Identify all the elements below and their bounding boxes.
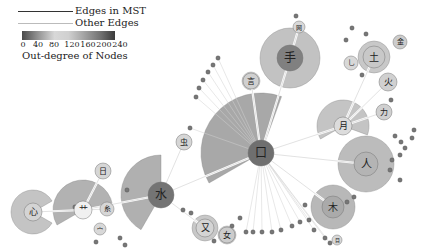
node-yi: 乚 [344,56,358,70]
leaf-node [238,216,242,220]
node-nv: 女 [219,227,235,243]
leaf-node [244,230,248,234]
leaf-node [352,195,356,199]
colorbar-ticks: 0 40 80 120 160 200 240 [21,40,131,50]
leaf-node [251,230,255,234]
node-label: 虫 [180,137,188,147]
node-label: 网 [296,24,302,32]
node-label: 宀 [97,226,103,233]
node-label: 人 [361,158,372,171]
node-label: 艹 [79,205,88,215]
mst-edge-swatch [18,11,73,12]
node-ri: 日 [95,163,111,179]
leaf-node [345,200,349,204]
leaf-node [290,224,294,228]
node-label: 土 [369,51,379,63]
leaf-node [94,240,98,244]
other-edge-swatch [18,23,73,24]
leaf-node [294,14,298,18]
colorbar-tick: 200 [96,40,111,49]
leaf-node [194,95,198,99]
leaf-node [307,218,311,222]
leaf-node [201,78,205,82]
colorbar-tick: 0 [20,40,25,49]
node-label: 糸 [104,204,111,213]
legend-other-label: Other Edges [75,17,139,29]
leaf-node [398,178,402,182]
leaf-node [279,228,283,232]
leaf-node [181,208,185,212]
node-label: 金 [397,37,404,46]
node-yan: 言 [243,73,259,89]
leaf-node [393,134,397,138]
leaf-node [260,230,264,234]
node-label: 女 [223,230,231,240]
colorbar-tick: 120 [64,40,79,49]
leaf-node [206,70,210,74]
legend-mst: Edges in MST [18,5,168,17]
node-label: 又 [201,223,210,233]
leaf-node [118,236,122,240]
colorbar-tick: 240 [112,40,127,49]
node-yue: 月 [334,117,352,135]
legend: Edges in MST Other Edges 0 40 80 120 160… [18,2,168,62]
node-you: 又 [196,219,214,237]
node-shou: 手 [277,45,303,71]
legend-other: Other Edges [18,17,168,29]
node-tu: 土 [363,46,385,68]
leaf-node [216,56,220,60]
node-label: 水 [155,188,167,202]
leaf-node [189,211,193,215]
leaf-node [360,73,364,77]
leaf-node [123,243,127,247]
leaf-node [412,128,416,132]
leaf-node [188,126,192,130]
node-huo: 火 [379,73,397,91]
leaf-node [410,136,414,140]
leaf-node [270,230,274,234]
node-label: 心 [29,207,38,217]
node-label: 目 [335,237,340,244]
leaf-node [390,158,394,162]
node-label: 乚 [348,59,355,67]
node-label: 木 [328,202,338,213]
colorbar [22,31,115,40]
node-shui: 水 [148,182,174,208]
colorbar-tick: 160 [80,40,95,49]
leaf-node [328,241,332,245]
leaf-node [388,168,392,172]
other-edge [261,153,314,230]
leaf-node [125,188,129,192]
leaf-node [350,26,354,30]
node-label: 力 [380,107,388,117]
leaf-node [298,220,302,224]
leaf-node [398,153,402,157]
leaf-node [312,228,316,232]
leaf-node [212,239,216,243]
colorbar-title: Out-degree of Nodes [22,50,128,61]
node-mu2: 目 [332,235,342,245]
node-label: 口 [255,146,267,160]
legend-mst-label: Edges in MST [75,5,146,17]
node-label: 月 [339,121,348,131]
node-cao: 艹 [74,201,92,219]
node-fan [201,93,282,183]
node-xin: 心 [24,203,42,221]
leaf-node [344,38,348,42]
leaf-node [303,203,307,207]
leaf-node [323,236,327,240]
node-si: 糸 [100,202,114,216]
node-label: 手 [284,51,296,65]
mst-edge-outline [261,153,333,207]
node-ren: 人 [354,152,378,176]
node-label: 火 [384,77,393,87]
node-wang: 网 [293,21,305,33]
node-chong: 虫 [176,134,192,150]
leaf-node [211,63,215,67]
node-label: 言 [247,76,255,86]
leaf-node [399,140,403,144]
leaf-node [364,32,368,36]
leaf-node [197,86,201,90]
colorbar-tick: 40 [33,40,43,49]
colorbar-tick: 80 [49,40,59,49]
